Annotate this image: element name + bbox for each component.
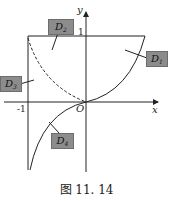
- curve-dashed: [28, 38, 86, 102]
- pointer-d1: [125, 50, 147, 58]
- tick-x-minus-1: -1: [17, 104, 26, 114]
- diagram-canvas: [0, 0, 173, 201]
- pointer-d3: [20, 80, 34, 84]
- y-axis-label: y: [77, 4, 83, 15]
- region-label-d2: D2: [48, 19, 74, 35]
- region-label-d4: D4: [51, 133, 74, 149]
- pointer-d4: [49, 122, 59, 133]
- origin-label: O: [76, 103, 84, 114]
- region-label-d1: D1: [146, 51, 168, 67]
- figure-caption: 图 11. 14: [0, 180, 173, 197]
- x-axis-label: x: [152, 104, 158, 115]
- region-label-d3: D3: [0, 76, 22, 92]
- tick-y-1: 1: [78, 27, 84, 37]
- curve-right: [86, 36, 145, 102]
